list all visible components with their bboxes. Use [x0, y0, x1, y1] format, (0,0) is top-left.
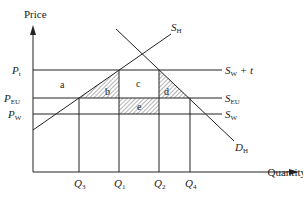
sh-curve [33, 34, 171, 130]
seu-label: SEU [225, 92, 240, 106]
q4-label: Q4 [185, 177, 197, 191]
area-d-label: d [164, 86, 169, 97]
tariff-diagram: Price Quantity Pt PEU PW Q3 Q1 Q2 Q4 SH … [0, 0, 303, 198]
area-c-label: c [136, 78, 141, 89]
area-a-label: a [60, 79, 65, 90]
dh-curve [116, 29, 234, 141]
area-b-label: b [105, 86, 110, 97]
peu-label: PEU [3, 92, 20, 106]
pw-label: PW [7, 108, 22, 122]
pt-label: Pt [11, 64, 21, 78]
area-e-label: e [137, 101, 142, 112]
x-axis-label: Quantity [268, 166, 304, 178]
sw-plus-t-label: SW + t [225, 64, 254, 78]
dh-label: DH [234, 141, 248, 155]
sw-label: SW [225, 108, 238, 122]
y-axis-label: Price [24, 8, 47, 20]
sh-label: SH [171, 21, 182, 35]
q1-label: Q1 [114, 177, 126, 191]
q3-label: Q3 [74, 177, 86, 191]
q2-label: Q2 [154, 177, 166, 191]
y-axis-arrow-icon [30, 25, 36, 35]
